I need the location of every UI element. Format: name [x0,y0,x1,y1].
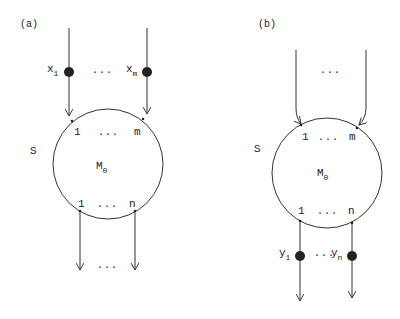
input-port-1-dot [300,124,303,127]
input-port-ellipsis: ... [318,132,339,143]
output-var-dot-y1 [295,251,305,261]
input-port-1-label: 1 [302,131,309,143]
input-port-1-label: 1 [74,126,81,138]
output-port-n-label: n [129,198,136,210]
output-port-1-label: 1 [298,205,305,217]
input-port-m-dot [356,127,359,130]
panel-b: (b) ... 1 ... m S M0 1 ... n y1 ... yn [254,19,382,301]
input-port-m-label: m [349,131,356,143]
module-label: M0 [96,160,108,175]
input-var-x1-label: x1 [47,63,59,78]
input-port-m-label: m [134,126,141,138]
input-port-m-dot [142,118,145,121]
panel-a-label: (a) [20,19,38,30]
output-var-y1-label: y1 [279,247,291,262]
system-label-s: S [30,145,37,157]
input-line-1 [296,50,301,124]
input-port-1-dot [71,120,74,123]
output-port-ellipsis: ... [317,206,338,217]
output-var-dot-yn [347,251,357,261]
panel-b-label: (b) [258,19,276,30]
input-var-dot-xm [142,67,152,77]
panel-a: (a) x1 ... xm 1 ... m S M0 1 ... n ... [20,19,163,271]
input-ellipsis: ... [320,65,341,76]
output-port-n-label: n [348,205,355,217]
input-port-ellipsis: ... [98,127,119,138]
input-var-xm-label: xm [126,63,138,78]
input-var-ellipsis: ... [92,65,113,76]
system-label-s: S [254,143,261,155]
input-line-m [359,50,366,125]
output-ellipsis: ... [97,260,118,271]
output-var-yn-label: yn [331,247,343,262]
output-port-ellipsis: ... [97,199,118,210]
input-var-dot-x1 [64,67,74,77]
diagram-canvas: (a) x1 ... xm 1 ... m S M0 1 ... n ... (… [0,0,400,319]
module-label: M0 [317,167,329,182]
output-port-1-label: 1 [78,198,85,210]
